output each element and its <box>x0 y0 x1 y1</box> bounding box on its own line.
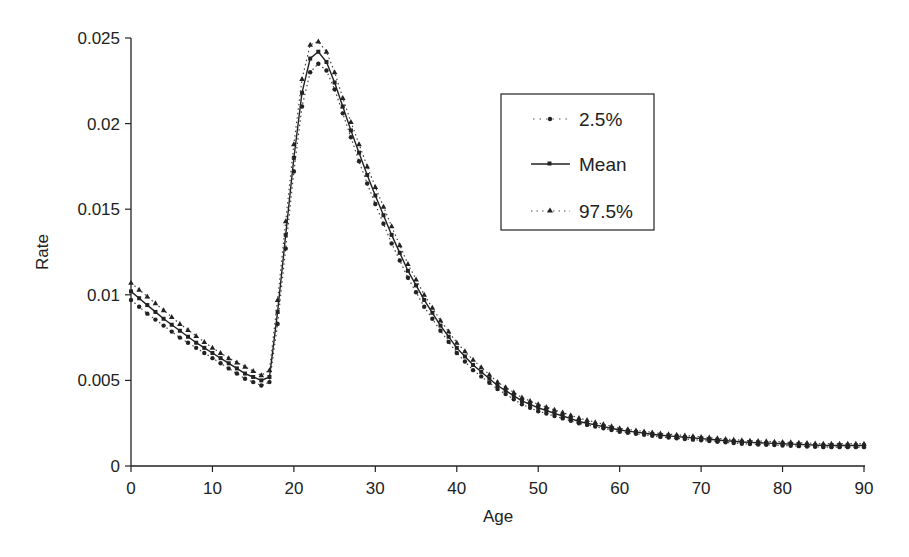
data-point-marker <box>161 307 167 312</box>
data-point-marker <box>511 389 517 394</box>
data-point-marker <box>186 341 190 345</box>
data-point-marker <box>186 335 190 339</box>
data-point-marker <box>259 383 263 387</box>
data-point-marker <box>381 222 385 226</box>
data-point-marker <box>381 204 387 209</box>
data-point-marker <box>333 81 337 85</box>
x-tick-label: 0 <box>126 479 135 498</box>
data-point-marker <box>170 323 174 327</box>
data-point-marker <box>357 159 361 163</box>
data-point-marker <box>804 440 810 445</box>
data-point-marker <box>544 409 548 413</box>
data-point-marker <box>210 345 216 350</box>
circle-marker-icon <box>548 117 552 121</box>
data-point-marker <box>218 350 224 355</box>
data-point-marker <box>178 329 182 333</box>
x-tick-label: 90 <box>855 479 874 498</box>
series-layer <box>128 38 867 449</box>
data-point-marker <box>633 427 639 432</box>
data-point-marker <box>715 435 721 440</box>
data-point-marker <box>219 356 223 360</box>
data-point-marker <box>577 419 581 423</box>
line-chart: 00.0050.010.0150.020.025 010203040506070… <box>0 0 909 557</box>
data-point-marker <box>520 399 524 403</box>
data-point-marker <box>674 432 680 437</box>
y-tick-label: 0 <box>111 457 120 476</box>
data-point-marker <box>153 317 157 321</box>
data-point-marker <box>519 395 525 400</box>
data-point-marker <box>649 429 655 434</box>
data-point-marker <box>193 333 199 338</box>
data-point-marker <box>853 441 859 446</box>
data-point-marker <box>601 421 607 426</box>
data-point-marker <box>398 251 402 255</box>
data-point-marker <box>267 375 271 379</box>
y-axis-ticks: 00.0050.010.0150.020.025 <box>77 29 131 476</box>
x-tick-label: 60 <box>610 479 629 498</box>
data-point-marker <box>145 303 149 307</box>
data-point-marker <box>561 414 565 418</box>
data-point-marker <box>528 402 532 406</box>
data-point-marker <box>397 242 403 247</box>
data-point-marker <box>690 433 696 438</box>
data-point-marker <box>487 377 491 381</box>
data-point-marker <box>568 412 574 417</box>
data-point-marker <box>812 440 818 445</box>
data-point-marker <box>365 173 369 177</box>
data-point-marker <box>780 439 786 444</box>
data-point-marker <box>495 379 501 384</box>
x-axis-ticks: 0102030405060708090 <box>126 466 873 498</box>
data-point-marker <box>861 441 867 446</box>
data-point-marker <box>576 415 582 420</box>
data-point-marker <box>235 366 239 370</box>
data-point-marker <box>479 374 483 378</box>
data-point-marker <box>153 310 157 314</box>
x-tick-label: 10 <box>203 479 222 498</box>
data-point-marker <box>503 384 509 389</box>
data-point-marker <box>455 346 459 350</box>
plot-area <box>128 38 867 449</box>
data-point-marker <box>178 335 182 339</box>
data-point-marker <box>218 361 222 365</box>
data-point-marker <box>504 389 508 393</box>
data-point-marker <box>772 439 778 444</box>
data-point-marker <box>194 346 198 350</box>
data-point-marker <box>341 104 345 108</box>
data-point-marker <box>430 305 436 310</box>
data-point-marker <box>243 376 247 380</box>
data-point-marker <box>202 339 208 344</box>
x-tick-label: 30 <box>366 479 385 498</box>
data-point-marker <box>438 317 444 322</box>
data-point-marker <box>430 317 434 321</box>
data-point-marker <box>137 305 141 309</box>
y-tick-label: 0.025 <box>77 29 120 48</box>
data-point-marker <box>487 380 491 384</box>
legend-label: 2.5% <box>579 109 622 130</box>
data-point-marker <box>332 69 338 74</box>
data-point-marker <box>398 258 402 262</box>
legend: 2.5% Mean 97.5% <box>501 94 654 230</box>
data-point-marker <box>389 241 393 245</box>
data-point-marker <box>251 380 255 384</box>
data-point-marker <box>463 359 467 363</box>
series-2-5- <box>129 61 866 449</box>
data-point-marker <box>170 329 174 333</box>
data-point-marker <box>316 50 320 54</box>
data-point-marker <box>414 283 418 287</box>
y-tick-label: 0.01 <box>87 286 120 305</box>
data-point-marker <box>227 366 231 370</box>
data-point-marker <box>414 290 418 294</box>
x-tick-label: 20 <box>284 479 303 498</box>
data-point-marker <box>592 419 598 424</box>
data-point-marker <box>299 76 305 81</box>
legend-label: Mean <box>579 154 627 175</box>
data-point-marker <box>137 296 141 300</box>
data-point-marker <box>259 378 263 382</box>
data-point-marker <box>845 441 851 446</box>
data-point-marker <box>723 436 729 441</box>
data-point-marker <box>324 68 328 72</box>
data-point-marker <box>625 426 631 431</box>
data-point-marker <box>438 329 442 333</box>
data-point-marker <box>364 163 370 168</box>
data-point-marker <box>185 327 191 332</box>
